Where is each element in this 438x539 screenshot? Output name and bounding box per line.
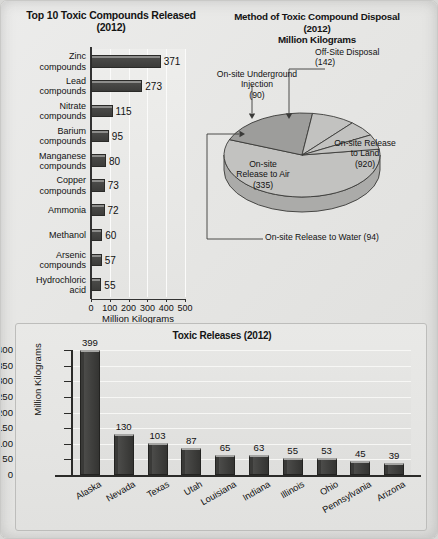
chart1-x-axis-line [91,299,185,300]
chart3-bar [80,350,100,475]
chart3-gridline [73,397,411,398]
chart3-y-tick-wrap: 300 [16,381,71,382]
chart1-category-label: Nitratecompounds [12,101,86,121]
pie-label-line: Release to Air [219,169,307,179]
chart1-tick [166,299,167,302]
chart3-y-axis [71,350,73,476]
chart3-gridline [73,366,411,367]
pie-label-line: (335) [219,180,307,190]
chart3-bar-value: 45 [355,448,366,459]
chart1-category-label: Zinccompounds [12,51,86,71]
chart1-bar [91,130,109,142]
chart1-category-label: Hydrochloricacid [12,274,86,294]
pie-label-line: On-site Underground [197,69,317,79]
chart3-category-label: Indiana [241,479,272,503]
chart3-bar [215,455,235,475]
pie-label-line: Injection [197,79,317,89]
chart3-gridline [73,381,411,382]
chart3-x-axis [55,475,421,477]
chart1-tick-label: 0 [88,303,93,313]
chart3-y-tick-label: 300 [0,375,13,386]
chart3-bar [350,461,370,475]
chart1-bar-value: 73 [108,180,119,191]
chart3-y-tick-wrap: 100 [16,444,71,445]
chart3-y-tick-wrap: 0 [16,475,71,476]
chart1-category-label: Leadcompounds [12,76,86,96]
chart1-bar-row: Manganesecompounds80 [91,148,185,173]
chart3-y-tick-wrap: 400 [16,350,71,351]
chart1-tick [185,299,186,302]
chart1-bar-row: Bariumcompounds95 [91,123,185,148]
pie-label-line: On-site Release to Water (94) [265,232,425,242]
chart3-bar [283,458,303,475]
chart1-title-line2: (2012) [5,21,217,33]
chart1-tick [91,299,92,302]
chart1-bar-value: 80 [109,155,120,166]
pie-slice-label: On-site UndergroundInjection(90) [197,69,317,100]
chart3-bar-value: 63 [254,442,265,453]
chart1-tick [147,299,148,302]
chart1-title-line1: Top 10 Toxic Compounds Released [5,9,217,21]
infographic-page: Top 10 Toxic Compounds Released (2012) Z… [0,0,438,539]
chart3-y-tick-wrap: 150 [16,428,71,429]
chart1-tick-label: 400 [159,303,174,313]
chart3-bar [249,455,269,475]
chart1-bar [91,80,142,92]
chart1-category-label: Manganesecompounds [12,150,86,170]
chart1-tick-label: 500 [177,303,192,313]
chart1-bar-value: 273 [145,81,162,92]
chart1-bar [91,204,105,216]
chart1-bar-row: Nitratecompounds115 [91,99,185,124]
chart3-y-tick-label: 50 [2,453,13,464]
chart3-category-label: Alaska [74,479,103,501]
pie-label-line: On-site Release [315,138,415,148]
chart3-bar [148,443,168,475]
chart1-bar-value: 72 [108,205,119,216]
chart3-bar-value: 399 [82,337,98,348]
chart3-bar [181,448,201,475]
chart3-y-tick-label: 350 [0,360,13,371]
chart1-bar-row: Arseniccompounds57 [91,247,185,272]
chart1-title: Top 10 Toxic Compounds Released (2012) [5,9,217,34]
pie-chart-disposal-method: Method of Toxic Compound Disposal (2012)… [197,7,437,257]
chart3-y-tick-wrap: 350 [16,366,71,367]
chart3-category-label: Louisiana [199,479,238,507]
chart3-gridline [73,350,411,351]
chart3-y-tick-label: 200 [0,407,13,418]
chart3-y-tick-label: 250 [0,391,13,402]
chart3-bar-value: 130 [116,421,132,432]
chart3-bar-value: 65 [220,442,231,453]
chart3-y-axis-label: Million Kilograms [32,315,43,445]
chart1-category-label: Coppercompounds [12,175,86,195]
vertical-bar-chart-toxic-releases: Toxic Releases (2012) 050100150200250300… [15,323,427,531]
chart1-bar-value: 55 [104,279,115,290]
chart1-tick [110,299,111,302]
chart3-bar-value: 53 [321,445,332,456]
chart1-bar-row: Hydrochloricacid55 [91,272,185,297]
chart1-category-label: Methanol [12,230,86,240]
chart1-category-label: Ammonia [12,205,86,215]
chart3-bar [384,463,404,475]
chart3-y-tick-wrap: 250 [16,397,71,398]
chart1-bar-row: Zinccompounds371 [91,49,185,74]
chart1-bar-row: Coppercompounds73 [91,173,185,198]
pie-slice-label: On-siteRelease to Air(335) [219,159,307,190]
pie-slice-label: On-site Release to Water (94) [265,232,425,242]
chart1-tick-label: 200 [121,303,136,313]
chart1-tick [129,299,130,302]
pie-label-line: to Land [315,148,415,158]
chart1-bar-row: Ammonia72 [91,198,185,223]
chart1-tick-label: 100 [102,303,117,313]
chart1-tick-label: 300 [140,303,155,313]
pie-slice-label: Off-Site Disposal(142) [315,47,425,68]
chart3-category-label: Ohio [318,479,340,497]
chart3-category-label: Texas [145,479,171,500]
chart3-bar-value: 87 [186,435,197,446]
arrow-injection [249,114,255,120]
chart1-bar [91,278,101,290]
pie-label-line: (90) [197,90,317,100]
chart1-bar [91,179,105,191]
chart1-bar [91,154,106,166]
pie-svg [197,7,437,257]
chart1-bar [91,105,113,117]
